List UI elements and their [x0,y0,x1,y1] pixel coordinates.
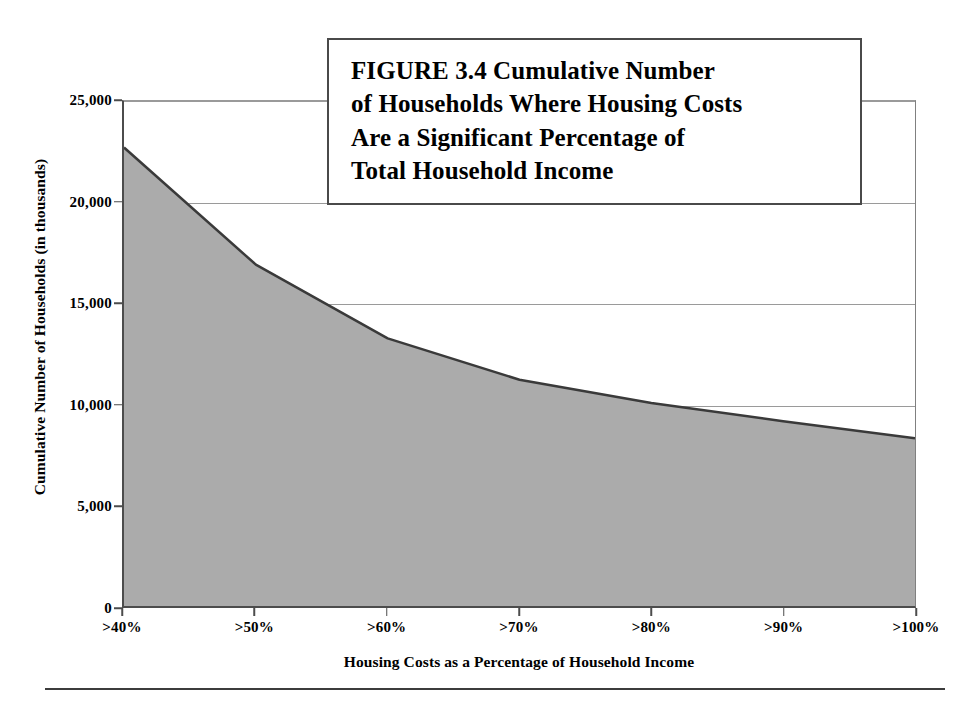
area-fill [124,147,915,606]
x-axis-tick-label: >70% [499,619,538,636]
x-axis-tick-label: >60% [367,619,406,636]
x-axis-tick-label: >80% [632,619,671,636]
y-axis-tick-mark [114,506,122,508]
x-axis-title: Housing Costs as a Percentage of Househo… [122,653,916,671]
y-axis-tick-mark [114,302,122,304]
x-axis-tick-mark [651,608,653,616]
figure-title-line-3: Are a Significant Percentage of [351,121,844,154]
figure-title-line-4: Total Household Income [351,154,844,187]
y-axis-tick-marks [0,100,122,608]
x-axis-tick-mark [121,608,123,616]
x-axis-tick-label: >50% [235,619,274,636]
x-axis-tick-mark [518,608,520,616]
x-axis-tick-label: >100% [892,619,939,636]
figure-container: Cumulative Number of Households (in thou… [0,0,980,704]
figure-title-box: FIGURE 3.4 Cumulative Number of Househol… [327,38,862,205]
x-axis-tick-label: >90% [764,619,803,636]
x-axis-tick-mark [783,608,785,616]
y-axis-tick-mark [114,404,122,406]
figure-title-line-2: of Households Where Housing Costs [351,87,844,120]
footer-divider [45,688,945,690]
x-axis-tick-mark [254,608,256,616]
x-axis-tick-mark [915,608,917,616]
x-axis-tick-labels: >40%>50%>60%>70%>80%>90%>100% [122,619,916,643]
x-axis-tick-label: >40% [102,619,141,636]
figure-title-line-1: FIGURE 3.4 Cumulative Number [351,54,844,87]
y-axis-tick-mark [114,99,122,101]
x-axis-tick-mark [386,608,388,616]
y-axis-tick-mark [114,201,122,203]
